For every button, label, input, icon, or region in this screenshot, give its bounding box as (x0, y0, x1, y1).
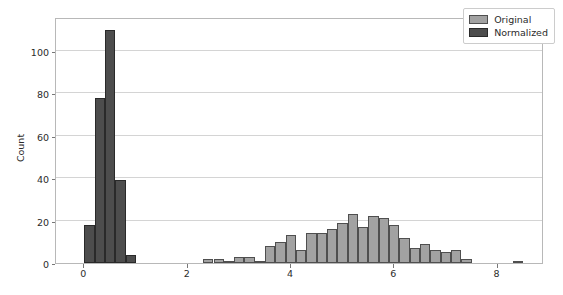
histogram-bar (306, 233, 316, 263)
legend-swatch-original-icon (469, 15, 488, 24)
y-tick-label: 100 (9, 46, 49, 57)
histogram-bar (203, 259, 213, 263)
histogram-bar (296, 250, 306, 263)
histogram-bar (358, 227, 368, 263)
histogram-bar (389, 225, 399, 263)
x-tick-label: 6 (378, 268, 408, 279)
x-tick-label: 0 (68, 268, 98, 279)
plot-area (55, 18, 543, 264)
histogram-bar (420, 244, 430, 263)
x-tick-mark (497, 264, 498, 268)
x-tick-label: 2 (172, 268, 202, 279)
y-tick-label: 60 (9, 131, 49, 142)
x-tick-mark (187, 264, 188, 268)
histogram-bar (224, 261, 234, 263)
y-tick-label: 20 (9, 216, 49, 227)
histogram-bar (275, 242, 285, 263)
histogram-bar (126, 255, 136, 263)
histogram-bar (399, 238, 409, 263)
x-tick-mark (393, 264, 394, 268)
histogram-bar (441, 252, 451, 263)
histogram-bar (461, 259, 471, 263)
chart-root: Count 020406080100 02468 Original Normal… (0, 0, 563, 295)
y-tick-mark (52, 264, 56, 265)
histogram-bar (84, 225, 94, 263)
histogram-bar (368, 216, 378, 263)
histogram-bar (430, 250, 440, 263)
histogram-bar (115, 180, 125, 263)
histogram-bar (255, 261, 265, 263)
histogram-bar (348, 214, 358, 263)
histogram-bar (234, 257, 244, 263)
histogram-bar (286, 235, 296, 263)
histogram-bar (105, 30, 115, 263)
histogram-bar (95, 98, 105, 263)
histogram-bar (265, 246, 275, 263)
histogram-bar (379, 218, 389, 263)
histogram-bar (214, 259, 224, 263)
x-tick-mark (290, 264, 291, 268)
legend-swatch-normalized-icon (469, 28, 488, 37)
legend: Original Normalized (463, 8, 555, 44)
histogram-bar (327, 229, 337, 263)
histogram-bar (337, 223, 347, 263)
histogram-bar (410, 248, 420, 263)
legend-item-original: Original (469, 13, 548, 26)
legend-label-original: Original (494, 14, 531, 25)
y-tick-label: 40 (9, 174, 49, 185)
histogram-bars (56, 19, 542, 263)
histogram-bar (451, 250, 461, 263)
y-tick-label: 0 (9, 259, 49, 270)
x-tick-label: 8 (482, 268, 512, 279)
x-tick-mark (83, 264, 84, 268)
x-tick-label: 4 (275, 268, 305, 279)
y-tick-label: 80 (9, 89, 49, 100)
histogram-bar (513, 261, 523, 263)
histogram-bar (244, 257, 254, 263)
histogram-bar (317, 233, 327, 263)
legend-label-normalized: Normalized (494, 27, 548, 38)
legend-item-normalized: Normalized (469, 26, 548, 39)
